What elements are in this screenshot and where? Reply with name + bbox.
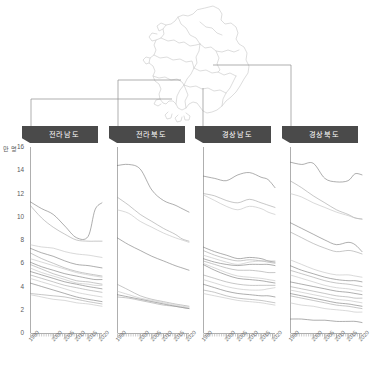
series-line <box>290 162 362 182</box>
series-line <box>203 173 275 188</box>
series-line <box>290 282 362 295</box>
panel-label: 전라북도 <box>136 131 166 138</box>
y-tick-label: 6 <box>8 260 24 266</box>
panel-header-jeollabuk[interactable]: 전라북도 <box>109 126 185 143</box>
series-line <box>30 245 102 258</box>
series-line <box>117 164 189 212</box>
series-line <box>117 197 189 241</box>
panel-plot-gyeongsangbuk[interactable] <box>290 147 362 333</box>
leader-line-jeollabuk <box>118 80 181 126</box>
y-tick-label: 8 <box>8 237 24 243</box>
y-tick-label: 4 <box>8 284 24 290</box>
series-line <box>117 297 189 309</box>
y-tick-label: 0 <box>8 330 24 336</box>
figure-canvas: 만 명 전라남도 전라북도 경상남도 경상북도 1614121086420199… <box>0 0 377 373</box>
series-line <box>290 293 362 306</box>
panel-header-jeollanam[interactable]: 전라남도 <box>22 126 98 143</box>
y-tick-label: 14 <box>8 167 24 173</box>
series-line <box>117 210 189 243</box>
series-line <box>30 202 102 240</box>
series-line <box>290 194 362 220</box>
series-line <box>203 261 275 273</box>
series-line <box>117 238 189 271</box>
series-line <box>30 295 102 307</box>
y-tick-label: 2 <box>8 307 24 313</box>
y-tick-label: 16 <box>8 144 24 150</box>
series-line <box>203 293 275 305</box>
panel-header-gyeongsangnam[interactable]: 경상남도 <box>195 126 271 143</box>
series-line <box>203 195 275 215</box>
series-line <box>203 284 275 297</box>
panel-plot-jeollabuk[interactable] <box>117 147 189 333</box>
leader-line-gyeongsangbuk <box>213 65 291 126</box>
series-line <box>30 262 102 280</box>
series-line <box>30 278 102 297</box>
series-line <box>203 194 275 208</box>
series-line <box>30 268 102 286</box>
leader-line-jeollanam <box>31 99 172 126</box>
y-axis: 만 명 <box>0 146 32 346</box>
series-line <box>290 260 362 277</box>
series-line <box>203 264 275 283</box>
panel-label: 경상북도 <box>309 131 339 138</box>
panel-label: 전라남도 <box>49 131 79 138</box>
series-line <box>30 205 102 241</box>
panel-label: 경상남도 <box>222 131 252 138</box>
series-line <box>203 250 275 263</box>
panel-plot-jeollanam[interactable] <box>30 147 102 333</box>
y-tick-label: 10 <box>8 214 24 220</box>
y-tick-label: 12 <box>8 191 24 197</box>
panel-plot-gyeongsangnam[interactable] <box>203 147 275 333</box>
series-line <box>290 181 362 219</box>
panel-header-gyeongsangbuk[interactable]: 경상북도 <box>282 126 358 143</box>
series-line <box>290 319 362 323</box>
